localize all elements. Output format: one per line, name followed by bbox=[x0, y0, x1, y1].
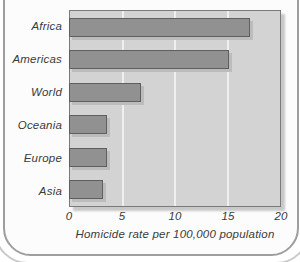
bar-row bbox=[70, 174, 280, 207]
bar-asia bbox=[69, 180, 103, 199]
x-tick-20: 20 bbox=[275, 210, 288, 222]
bar-row bbox=[70, 141, 280, 174]
category-label-europe: Europe bbox=[0, 141, 62, 174]
x-tick-10: 10 bbox=[169, 210, 182, 222]
bar-row bbox=[70, 76, 280, 109]
category-label-world: World bbox=[0, 76, 62, 109]
category-label-americas: Americas bbox=[0, 43, 62, 76]
x-axis-label: Homicide rate per 100,000 population bbox=[54, 228, 296, 240]
bar-europe bbox=[69, 148, 107, 167]
plot-area bbox=[69, 10, 281, 207]
bar-africa bbox=[69, 18, 250, 37]
x-tick-0: 0 bbox=[66, 210, 72, 222]
x-tick-15: 15 bbox=[222, 210, 235, 222]
category-label-oceania: Oceania bbox=[0, 108, 62, 141]
category-label-africa: Africa bbox=[0, 10, 62, 43]
x-axis-ticks: 05101520 bbox=[69, 210, 281, 225]
bar-world bbox=[69, 83, 141, 102]
category-label-asia: Asia bbox=[0, 174, 62, 207]
category-labels: AfricaAmericasWorldOceaniaEuropeAsia bbox=[0, 10, 62, 207]
bar-americas bbox=[69, 50, 229, 69]
bar-oceania bbox=[69, 115, 107, 134]
bar-row bbox=[70, 44, 280, 77]
x-tick-5: 5 bbox=[119, 210, 125, 222]
bar-row bbox=[70, 109, 280, 142]
bars bbox=[70, 11, 280, 206]
bar-row bbox=[70, 11, 280, 44]
